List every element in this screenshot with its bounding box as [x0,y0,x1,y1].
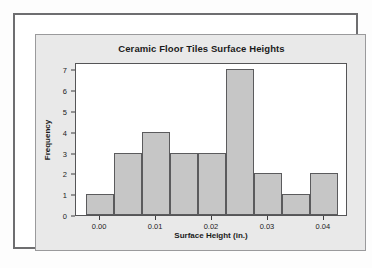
histogram-bar [254,173,282,215]
x-tick-label: 0.03 [260,222,275,231]
histogram-bar [198,153,226,215]
x-tick-mark [323,216,324,220]
y-tick-label: 2 [63,170,67,179]
plot-area [75,63,347,216]
y-tick-label: 5 [63,107,67,116]
histogram-bar [310,173,338,215]
x-axis-title: Surface Height (in.) [75,231,347,240]
x-tick-label: 0.04 [316,222,331,231]
y-tick-label: 0 [63,212,67,221]
y-tick-label: 3 [63,149,67,158]
y-tick-label: 7 [63,66,67,75]
histogram-bars [76,64,346,215]
histogram-bar [142,132,170,215]
x-tick-label: 0.01 [148,222,163,231]
screenshot-root: Ceramic Floor Tiles Surface Heights Freq… [0,0,372,268]
histogram-bar [282,194,310,215]
chart-panel: Ceramic Floor Tiles Surface Heights Freq… [35,34,366,251]
y-tick-label: 1 [63,191,67,200]
x-tick-mark [99,216,100,220]
figure-outer-frame: Ceramic Floor Tiles Surface Heights Freq… [13,13,358,249]
x-tick-mark [267,216,268,220]
y-tick-label: 4 [63,128,67,137]
y-tick-label: 6 [63,87,67,96]
histogram-bar [86,194,114,215]
x-tick-label: 0.00 [92,222,107,231]
plot-inner [76,64,346,215]
x-tick-label: 0.02 [204,222,219,231]
histogram-bar [226,69,254,215]
chart-title: Ceramic Floor Tiles Surface Heights [36,43,367,54]
histogram-bar [170,153,198,215]
histogram-bar [114,153,142,215]
x-tick-mark [211,216,212,220]
x-tick-mark [155,216,156,220]
y-axis: 01234567 [36,63,75,216]
